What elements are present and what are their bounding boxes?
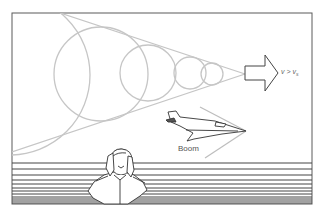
boom-label: Boom [178,144,199,153]
velocity-label: v > vs [281,68,299,77]
sonic-boom-diagram [0,0,324,216]
